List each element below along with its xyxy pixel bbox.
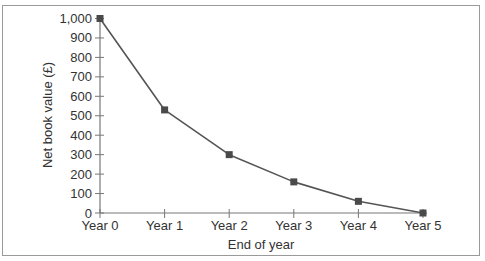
y-tick-label: 800 — [70, 50, 92, 65]
x-axis-title: End of year — [228, 237, 295, 252]
x-tick-label: Year 4 — [340, 218, 377, 233]
line-chart: 01002003004005006007008009001,000 Year 0… — [0, 0, 485, 261]
x-tick-label: Year 1 — [146, 218, 183, 233]
x-tick-label: Year 0 — [81, 218, 118, 233]
x-tick-label: Year 3 — [275, 218, 312, 233]
series-line — [100, 19, 423, 214]
data-series — [97, 15, 427, 217]
y-tick-label: 500 — [70, 108, 92, 123]
y-tick-label: 200 — [70, 167, 92, 182]
y-tick-label: 900 — [70, 30, 92, 45]
y-tick-label: 600 — [70, 89, 92, 104]
y-tick-label: 400 — [70, 128, 92, 143]
y-tick-label: 700 — [70, 69, 92, 84]
y-tick-label: 300 — [70, 147, 92, 162]
data-point-marker — [161, 106, 168, 113]
data-point-marker — [290, 178, 297, 185]
x-axis: Year 0Year 1Year 2Year 3Year 4Year 5 — [81, 209, 441, 233]
y-axis: 01002003004005006007008009001,000 — [59, 11, 104, 221]
y-tick-label: 100 — [70, 186, 92, 201]
data-point-marker — [355, 198, 362, 205]
y-axis-title: Net book value (£) — [40, 62, 55, 168]
x-tick-label: Year 2 — [211, 218, 248, 233]
y-tick-label: 1,000 — [59, 11, 92, 26]
data-point-marker — [226, 151, 233, 158]
x-tick-label: Year 5 — [404, 218, 441, 233]
data-point-marker — [97, 15, 104, 22]
data-point-marker — [420, 210, 427, 217]
